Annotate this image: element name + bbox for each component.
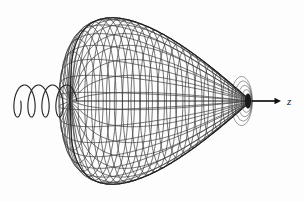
- z-axis-arrow: [252, 98, 281, 104]
- figure-canvas: z: [0, 0, 304, 202]
- figure-root: z: [0, 0, 304, 202]
- z-axis-label: z: [286, 95, 292, 107]
